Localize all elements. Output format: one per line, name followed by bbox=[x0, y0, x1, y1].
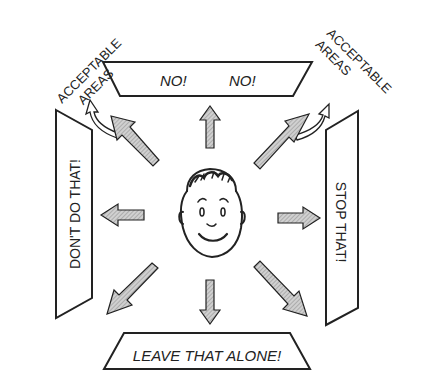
right-sign-text: STOP THAT! bbox=[333, 182, 349, 263]
arrow-right-icon bbox=[278, 207, 320, 229]
arrow-down-icon bbox=[200, 280, 220, 324]
arrow-up-right-icon bbox=[254, 114, 309, 169]
smiling-boy-face-icon bbox=[179, 169, 245, 257]
bottom-sign: LEAVE THAT ALONE! bbox=[104, 333, 310, 369]
top-sign: NO! NO! bbox=[103, 62, 312, 96]
bottom-sign-text: LEAVE THAT ALONE! bbox=[133, 347, 282, 364]
arrow-down-right-icon bbox=[254, 261, 307, 316]
arrow-down-left-icon bbox=[107, 263, 158, 314]
acceptable-areas-diagram: NO! NO! DON'T DO THAT! STOP THAT! LEAVE … bbox=[0, 0, 422, 389]
top-sign-word-2: NO! bbox=[229, 72, 257, 89]
arrow-up-icon bbox=[200, 106, 220, 148]
arrow-up-left-icon bbox=[111, 116, 159, 166]
left-sign: DON'T DO THAT! bbox=[56, 110, 92, 318]
top-sign-word-1: NO! bbox=[160, 72, 188, 89]
acceptable-areas-right-label: ACCEPTABLE AREAS bbox=[313, 26, 395, 108]
left-sign-text: DON'T DO THAT! bbox=[67, 159, 83, 269]
radiating-arrows bbox=[101, 106, 320, 324]
right-sign: STOP THAT! bbox=[326, 111, 358, 325]
arrow-left-icon bbox=[101, 204, 144, 226]
